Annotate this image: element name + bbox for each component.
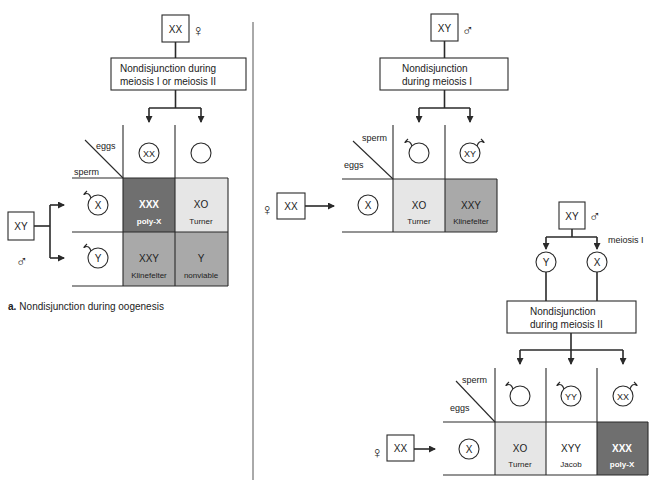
cell-karyotype: Y [198,253,205,264]
gamete-product: Y [543,257,550,268]
cell-syndrome: poly-X [137,217,162,226]
cell-syndrome: Klinefelter [453,217,489,226]
cell-karyotype: XXX [612,443,632,454]
row-label: eggs [344,160,364,170]
col-label: eggs [96,141,116,151]
egg-header-empty [191,143,211,163]
female-parent-node: XX ♀ [162,15,204,42]
cell-karyotype: XXX [139,199,159,210]
process-label-line2: meiosis I or meiosis II [120,76,216,87]
cell-syndrome: Jacob [560,460,582,469]
egg-header: X [365,200,372,211]
process-label-line2: during meiosis I [402,76,472,87]
process-label-line1: Nondisjunction during [120,63,216,74]
gamete-product: X [594,257,601,268]
punnett-grid-a: eggs sperm XX X Y XXX poly-X XO Turner X… [72,125,228,286]
col-label: sperm [462,375,487,385]
male-symbol-icon: ♂ [589,208,601,225]
sperm-header: XX [617,392,629,402]
sperm-header: Y [95,253,102,264]
cell-karyotype: XO [194,199,209,210]
cell-syndrome: Turner [189,217,213,226]
cell-karyotype: XO [513,443,528,454]
panel-b-meiosis-2: XY ♂ meiosis I Y X Nondisjunction during… [371,202,648,475]
egg-header: X [466,444,473,455]
process-box: Nondisjunction during meiosis II [507,301,636,333]
female-symbol-icon: ♀ [192,22,204,39]
karyotype-label: XY [14,221,28,232]
karyotype-label: XX [284,201,298,212]
male-parent-node: XY ♂ [431,14,474,41]
cell-syndrome: Klinefelter [131,271,167,280]
col-label: sperm [362,133,387,143]
cell-karyotype: XYY [561,443,581,454]
cell-karyotype: XXY [139,253,159,264]
nondisjunction-diagram: XX ♀ Nondisjunction during meiosis I or … [0,0,658,487]
sperm-header: YY [565,392,577,402]
male-symbol-icon: ♂ [462,22,474,39]
female-symbol-icon: ♀ [371,444,383,461]
sperm-header: XY [464,149,476,159]
process-box: Nondisjunction during meiosis I [380,58,508,90]
sperm-header: X [95,200,102,211]
egg-header: XX [143,149,155,159]
cell-syndrome: Turner [407,217,431,226]
cell-syndrome: nonviable [184,271,219,280]
male-symbol-icon: ♂ [16,253,28,270]
male-parent-node: XY ♂ [8,212,34,270]
row-label: sperm [74,167,99,177]
cell-syndrome: Turner [508,460,532,469]
karyotype-label: XX [394,443,408,454]
panel-a: XX ♀ Nondisjunction during meiosis I or … [8,15,246,312]
punnett-grid-b1: sperm eggs XY X XO Turner XXY Klinefelte… [342,125,497,232]
karyotype-label: XY [565,211,579,222]
process-label-line2: during meiosis II [530,319,603,330]
panel-b-meiosis-1: XY ♂ Nondisjunction during meiosis I spe… [261,14,508,232]
female-symbol-icon: ♀ [261,201,273,218]
cell-karyotype: XXY [461,200,481,211]
panel-caption: a.Nondisjunction during oogenesis [8,301,164,312]
cell-karyotype: XO [412,200,427,211]
process-box: Nondisjunction during meiosis I or meios… [111,58,246,90]
male-parent-node: XY ♂ [559,202,601,229]
karyotype-label: XY [438,23,452,34]
row-label: eggs [450,403,470,413]
female-parent-node: ♀ XX [371,435,414,461]
meiosis-label: meiosis I [608,235,644,245]
female-parent-node: ♀ XX [261,193,305,219]
process-label-line1: Nondisjunction [402,63,468,74]
process-label-line1: Nondisjunction [530,306,596,317]
karyotype-label: XX [169,24,183,35]
punnett-grid-b2: sperm eggs YY XX X XO Turner XYY Jacob X… [443,368,648,475]
cell-syndrome: poly-X [610,460,635,469]
